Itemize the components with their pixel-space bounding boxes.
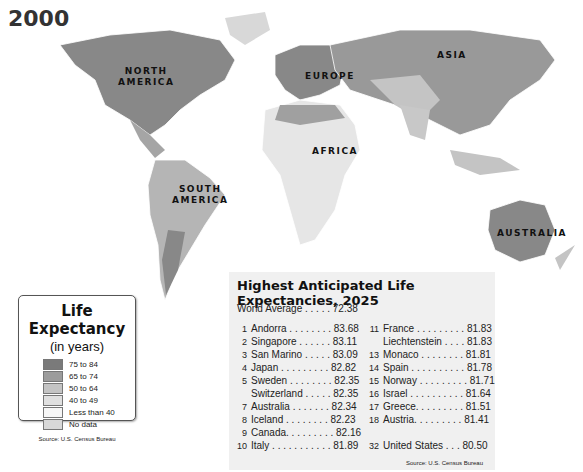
table-source: Source: U.S. Census Bureau <box>406 460 483 466</box>
legend-item: 75 to 84 <box>43 358 135 370</box>
table-row: 8Iceland . . . . . . . . 82.23 <box>235 413 361 426</box>
label-africa: AFRICA <box>312 146 358 157</box>
country-value: Norway . . . . . . . . . 81.71 <box>383 375 495 386</box>
south-america-shape <box>148 160 225 300</box>
legend-swatch <box>43 419 63 430</box>
legend-label: 75 to 84 <box>69 360 98 369</box>
legend-item: No data <box>43 418 135 430</box>
table-column-right: 11France . . . . . . . . . 81.83Liechten… <box>367 322 495 452</box>
country-value: Iceland . . . . . . . . 82.23 <box>251 414 356 425</box>
label-australia: AUSTRALIA <box>497 228 567 239</box>
legend-label: 40 to 49 <box>69 396 98 405</box>
table-row: 5Sweden . . . . . . . . 82.35 <box>235 374 361 387</box>
legend-label: Less than 40 <box>69 408 115 417</box>
legend-item: 40 to 49 <box>43 394 135 406</box>
greenland-shape <box>225 12 270 45</box>
table-row: 32United States . . . 80.50 <box>367 439 495 452</box>
rank: 10 <box>235 440 247 453</box>
country-value: Monaco . . . . . . . . 81.81 <box>383 349 491 360</box>
table-row: 10Italy . . . . . . . . . . . 81.89 <box>235 439 361 452</box>
country-value: France . . . . . . . . . 81.83 <box>383 323 492 334</box>
country-value: Singapore . . . . . . 83.11 <box>251 336 357 347</box>
world-average: World Average . . . . . 72.38 <box>237 303 358 314</box>
table-row: 17Greece. . . . . . . . . 81.51 <box>367 400 495 413</box>
table-row: 4Japan . . . . . . . . . 82.82 <box>235 361 361 374</box>
table-row: Liechtenstein . . . . 81.83 <box>367 335 495 348</box>
table-row: 18Austria. . . . . . . . . 81.41 <box>367 413 495 426</box>
table-row: 1Andorra . . . . . . . . 83.68 <box>235 322 361 335</box>
country-value: San Marino . . . . . 83.09 <box>251 349 358 360</box>
table-row: Switzerland . . . . . 82.35 <box>235 387 361 400</box>
country-value: Andorra . . . . . . . . 83.68 <box>251 323 359 334</box>
label-north-america: NORTH AMERICA <box>118 66 174 88</box>
legend-label: No data <box>69 420 97 429</box>
table-row: 7Australia . . . . . . . 82.34 <box>235 400 361 413</box>
country-value: Austria. . . . . . . . . 81.41 <box>383 414 489 425</box>
rank: 32 <box>367 440 379 453</box>
table-row: 13Monaco . . . . . . . . 81.81 <box>367 348 495 361</box>
country-value: Italy . . . . . . . . . . . 81.89 <box>251 440 358 451</box>
table-row: 9Canada. . . . . . . . . 82.16 <box>235 426 361 439</box>
country-value: Switzerland . . . . . 82.35 <box>251 388 358 399</box>
asia-shape <box>330 30 555 135</box>
legend-item: 50 to 64 <box>43 382 135 394</box>
table-row: 3San Marino . . . . . 83.09 <box>235 348 361 361</box>
label-asia: ASIA <box>437 50 467 61</box>
table-row <box>367 426 495 439</box>
country-value: Israel . . . . . . . . . . 81.64 <box>383 388 491 399</box>
table-row: 2Singapore . . . . . . 83.11 <box>235 335 361 348</box>
country-value: Sweden . . . . . . . . 82.35 <box>251 375 359 386</box>
country-value: Greece. . . . . . . . . 81.51 <box>383 401 491 412</box>
country-value: Liechtenstein . . . . 81.83 <box>383 336 492 347</box>
table-row: 15Norway . . . . . . . . . 81.71 <box>367 374 495 387</box>
legend-swatch <box>43 371 63 382</box>
legend-label: 65 to 74 <box>69 372 98 381</box>
label-south-america: SOUTH AMERICA <box>172 184 228 206</box>
legend-swatch <box>43 407 63 418</box>
table-column-left: 1Andorra . . . . . . . . 83.682Singapore… <box>235 322 361 452</box>
country-value: Japan . . . . . . . . . 82.82 <box>251 362 356 373</box>
legend-swatch <box>43 395 63 406</box>
table-row: 11France . . . . . . . . . 81.83 <box>367 322 495 335</box>
table-row: 14Spain . . . . . . . . . . 81.78 <box>367 361 495 374</box>
country-value: Australia . . . . . . . 82.34 <box>251 401 357 412</box>
legend-item: Less than 40 <box>43 406 135 418</box>
legend-swatch <box>43 383 63 394</box>
legend-item: 65 to 74 <box>43 370 135 382</box>
legend-items: 75 to 8465 to 7450 to 6440 to 49Less tha… <box>43 358 135 430</box>
label-europe: EUROPE <box>305 71 355 82</box>
life-expectancy-table: Highest Anticipated Life Expectancies, 2… <box>229 272 495 470</box>
legend-source: Source: U.S. Census Bureau <box>19 436 135 442</box>
table-row: 16Israel . . . . . . . . . . 81.64 <box>367 387 495 400</box>
legend-swatch <box>43 359 63 370</box>
legend-subtitle: (in years) <box>19 339 135 354</box>
legend-title: Life Expectancy <box>19 302 135 338</box>
map-legend: Life Expectancy (in years) 75 to 8465 to… <box>18 295 136 421</box>
legend-label: 50 to 64 <box>69 384 98 393</box>
country-value: Canada. . . . . . . . . 82.16 <box>251 427 361 438</box>
country-value: Spain . . . . . . . . . . 81.78 <box>383 362 492 373</box>
country-value: United States . . . 80.50 <box>383 440 488 451</box>
